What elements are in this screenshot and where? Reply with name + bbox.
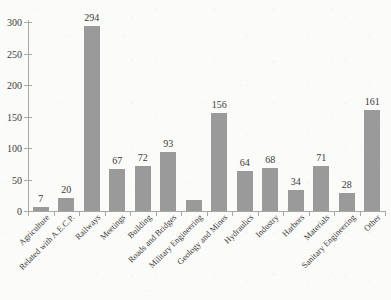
y-axis-tick-label: 150 bbox=[0, 113, 22, 123]
bar-value-label: 93 bbox=[156, 139, 182, 149]
y-axis-tick-label: 300 bbox=[0, 18, 22, 28]
bar-value-label: 72 bbox=[130, 153, 156, 163]
y-axis-tick-label: 250 bbox=[0, 50, 22, 60]
bar bbox=[84, 26, 100, 211]
bar-slot: 67 bbox=[105, 22, 131, 211]
bar bbox=[313, 166, 329, 211]
bar bbox=[186, 200, 202, 211]
y-axis-tick-label: 100 bbox=[0, 144, 22, 154]
bar-value-label: 161 bbox=[360, 97, 386, 107]
bar bbox=[237, 171, 253, 211]
bar-value-label: 34 bbox=[283, 177, 309, 187]
bar-slot: 28 bbox=[334, 22, 360, 211]
y-axis-tick-label: 200 bbox=[0, 81, 22, 91]
bar bbox=[364, 110, 380, 211]
y-axis-tick-label: 50 bbox=[0, 176, 22, 186]
bar-value-label: 67 bbox=[105, 156, 131, 166]
bar-value-label: 68 bbox=[258, 155, 284, 165]
bar-series: 7202946772931566468347128161 bbox=[28, 22, 385, 211]
bar bbox=[339, 193, 355, 211]
bar-slot: 68 bbox=[258, 22, 284, 211]
bar bbox=[33, 207, 49, 211]
bar-slot: 294 bbox=[79, 22, 105, 211]
bar-slot: 64 bbox=[232, 22, 258, 211]
x-axis-category-label: Other bbox=[363, 213, 383, 233]
bar-value-label: 64 bbox=[232, 158, 258, 168]
bar bbox=[160, 152, 176, 211]
bar bbox=[109, 169, 125, 211]
bar-slot: 71 bbox=[309, 22, 335, 211]
bar-slot: 20 bbox=[54, 22, 80, 211]
y-axis-tick-label: 0 bbox=[0, 207, 22, 217]
bar-slot: 161 bbox=[360, 22, 386, 211]
bar-value-label: 294 bbox=[79, 13, 105, 23]
bar bbox=[58, 198, 74, 211]
bar-value-label: 7 bbox=[28, 194, 54, 204]
x-axis-tick bbox=[385, 211, 386, 216]
bar-slot bbox=[181, 22, 207, 211]
bar-value-label: 156 bbox=[207, 100, 233, 110]
bar-slot: 72 bbox=[130, 22, 156, 211]
bar-value-label: 28 bbox=[334, 180, 360, 190]
bar bbox=[135, 166, 151, 211]
bar bbox=[211, 113, 227, 211]
bar bbox=[262, 168, 278, 211]
x-axis-category-label: Railways bbox=[73, 213, 101, 241]
bar-value-label: 71 bbox=[309, 153, 335, 163]
x-axis-category-label: Industry bbox=[254, 213, 280, 239]
bar-slot: 93 bbox=[156, 22, 182, 211]
bar-slot: 34 bbox=[283, 22, 309, 211]
bar-chart: 050100150200250300 720294677293156646834… bbox=[0, 0, 391, 300]
bar-slot: 7 bbox=[28, 22, 54, 211]
bar bbox=[288, 190, 304, 211]
bar-value-label: 20 bbox=[54, 185, 80, 195]
x-axis-category-label: Meetings bbox=[99, 213, 127, 241]
bar-slot: 156 bbox=[207, 22, 233, 211]
x-axis-labels: AgricultureRelated with A.E.C.P.Railways… bbox=[28, 213, 385, 300]
